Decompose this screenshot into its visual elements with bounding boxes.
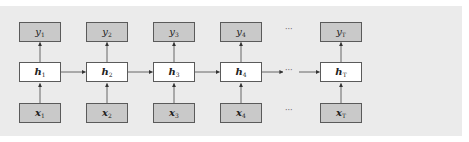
hidden-subscript: 4 <box>243 71 247 78</box>
hidden-state-box-h2: h2 <box>86 62 128 82</box>
ellipsis-hidden-row: ··· <box>285 66 293 75</box>
input-subscript: 1 <box>41 112 45 119</box>
output-box-y3: y3 <box>153 22 195 42</box>
input-box-xT: xT <box>320 103 362 123</box>
hidden-state-box-h3: h3 <box>153 62 195 82</box>
output-box-y4: y4 <box>220 22 262 42</box>
hidden-subscript: 1 <box>42 71 46 78</box>
input-box-x4: x4 <box>220 103 262 123</box>
hidden-subscript: 3 <box>176 71 180 78</box>
hidden-subscript: T <box>343 71 347 78</box>
hidden-label: h <box>235 66 242 77</box>
hidden-label: h <box>101 66 108 77</box>
input-box-x3: x3 <box>153 103 195 123</box>
output-subscript: 2 <box>108 31 112 38</box>
output-subscript: 4 <box>242 31 246 38</box>
hidden-state-box-hT: hT <box>320 62 362 82</box>
hidden-label: h <box>335 66 342 77</box>
input-box-x1: x1 <box>19 103 61 123</box>
output-subscript: 3 <box>175 31 179 38</box>
ellipsis-output-row: ··· <box>285 25 293 34</box>
output-subscript: T <box>342 31 346 38</box>
ellipsis-input-row: ··· <box>285 106 293 115</box>
hidden-label: h <box>34 66 41 77</box>
output-box-y1: y1 <box>19 22 61 42</box>
output-subscript: 1 <box>41 31 45 38</box>
input-subscript: T <box>342 112 346 119</box>
input-subscript: 4 <box>242 112 246 119</box>
hidden-label: h <box>168 66 175 77</box>
output-box-yT: yT <box>320 22 362 42</box>
input-box-x2: x2 <box>86 103 128 123</box>
hidden-state-box-h1: h1 <box>19 62 61 82</box>
hidden-state-box-h4: h4 <box>220 62 262 82</box>
hidden-subscript: 2 <box>109 71 113 78</box>
output-box-y2: y2 <box>86 22 128 42</box>
input-subscript: 2 <box>108 112 112 119</box>
input-subscript: 3 <box>175 112 179 119</box>
